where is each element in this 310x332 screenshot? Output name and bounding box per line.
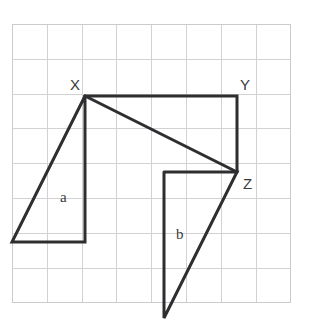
triangle-a	[12, 96, 85, 242]
figure-shapes	[12, 96, 237, 318]
grid-background	[12, 24, 291, 303]
geometry-figure: XYZab	[0, 0, 310, 332]
figure-labels: XYZab	[60, 76, 252, 242]
vertex-label-z: Z	[243, 175, 252, 192]
vertex-label-x: X	[70, 76, 80, 93]
region-label-a: a	[60, 189, 67, 205]
vertex-label-y: Y	[240, 76, 250, 93]
diagonal-x-to-z	[85, 96, 237, 172]
triangle-b	[164, 172, 237, 318]
region-label-b: b	[176, 226, 184, 242]
figure-canvas: XYZab	[0, 0, 310, 332]
